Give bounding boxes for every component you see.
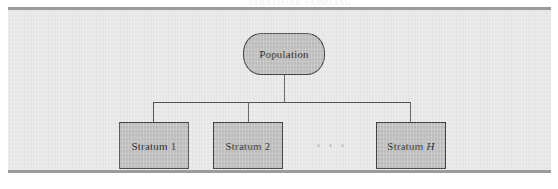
node-stratum-2-label-prefix: Stratum	[226, 140, 262, 152]
connector-drop-stratum-1	[153, 102, 154, 122]
node-stratum-1-label-suffix: 1	[171, 140, 177, 152]
connector-drop-stratum-h	[410, 102, 411, 122]
node-population: Population	[243, 33, 325, 75]
node-stratum-h: Stratum H	[376, 122, 446, 169]
node-stratum-1-label: Stratum 1	[132, 140, 177, 152]
connector-horizontal-bus	[153, 102, 410, 103]
ellipsis-dot-3	[341, 144, 344, 147]
node-stratum-h-label: Stratum H	[387, 140, 434, 152]
ellipsis-dot-1	[317, 144, 320, 147]
connector-drop-stratum-2	[248, 102, 249, 122]
figure-caption-strip: STRATIFIED SAMPLING	[180, 0, 420, 6]
ellipsis-dot-2	[329, 144, 332, 147]
figure-root: STRATIFIED SAMPLING Population Stratum 1…	[0, 0, 558, 189]
node-stratum-h-label-prefix: Stratum	[387, 140, 423, 152]
figure-panel: Population Stratum 1 Stratum 2 Stratum H	[8, 7, 551, 173]
node-stratum-2-label-suffix: 2	[265, 140, 271, 152]
ellipsis-between-strata	[296, 138, 364, 152]
connector-population-stem	[284, 75, 285, 102]
node-stratum-1-label-prefix: Stratum	[132, 140, 168, 152]
node-stratum-2-label: Stratum 2	[226, 140, 271, 152]
node-stratum-1: Stratum 1	[119, 122, 189, 169]
node-population-label: Population	[259, 48, 309, 60]
stratified-sampling-diagram: Population Stratum 1 Stratum 2 Stratum H	[8, 10, 551, 176]
node-stratum-2: Stratum 2	[213, 122, 283, 169]
node-stratum-h-label-suffix: H	[427, 140, 435, 152]
